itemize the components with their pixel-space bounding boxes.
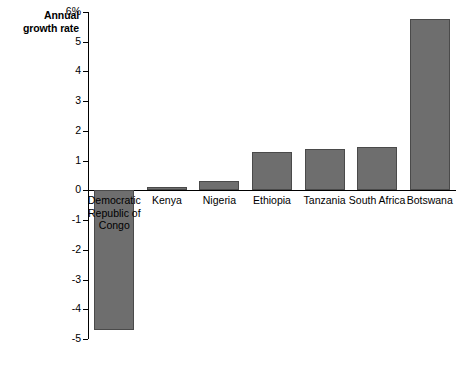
y-tick-label-text: -4 bbox=[72, 303, 81, 314]
bar bbox=[147, 187, 187, 190]
y-tick bbox=[83, 250, 88, 251]
y-tick-label-text: 3 bbox=[75, 95, 81, 106]
y-tick-label-text: -2 bbox=[72, 244, 81, 255]
y-tick-label-text: 5 bbox=[75, 36, 81, 47]
zero-line bbox=[88, 190, 456, 191]
bar bbox=[199, 181, 239, 190]
y-tick bbox=[83, 71, 88, 72]
y-tick bbox=[83, 12, 88, 13]
category-label: Botswana bbox=[370, 194, 465, 207]
bar bbox=[252, 152, 292, 191]
category-label-line: Republic of bbox=[54, 207, 174, 220]
bar-chart: Annual growth rate 6%543210-1-2-3-4-5 De… bbox=[0, 0, 465, 371]
y-tick bbox=[83, 42, 88, 43]
y-tick bbox=[83, 161, 88, 162]
y-tick-label-text: 4 bbox=[75, 65, 81, 76]
category-label-line: Botswana bbox=[370, 194, 465, 207]
plot-area: 6%543210-1-2-3-4-5 DemocraticRepublic of… bbox=[88, 12, 456, 339]
bar bbox=[357, 147, 397, 190]
y-tick bbox=[83, 131, 88, 132]
bar bbox=[410, 19, 450, 190]
y-tick bbox=[83, 101, 88, 102]
y-tick bbox=[83, 280, 88, 281]
category-label-line: Congo bbox=[54, 219, 174, 232]
y-tick-label-text: -5 bbox=[72, 333, 81, 344]
y-axis-title-line-2: growth rate bbox=[0, 22, 79, 35]
bar bbox=[305, 149, 345, 191]
y-tick bbox=[83, 309, 88, 310]
y-tick-label-text: 2 bbox=[75, 125, 81, 136]
y-tick-label-text: 6% bbox=[66, 6, 81, 17]
y-axis-line bbox=[88, 12, 89, 339]
y-tick-label-text: 1 bbox=[75, 155, 81, 166]
y-tick-label-text: -3 bbox=[72, 274, 81, 285]
y-tick bbox=[83, 339, 88, 340]
